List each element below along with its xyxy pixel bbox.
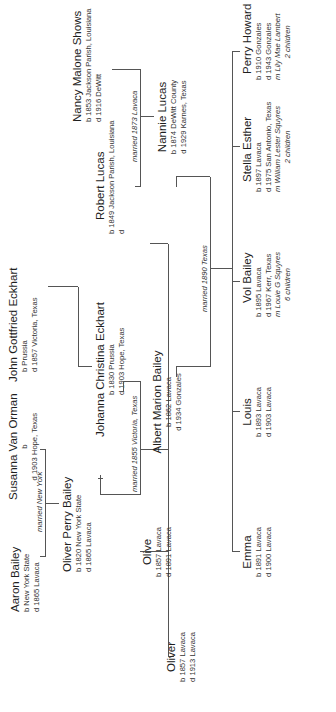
person-name: John Gottfried Eckhart	[6, 268, 20, 382]
person-birth: b 1910 Gonzales	[254, 4, 263, 80]
connector-line	[210, 268, 232, 269]
connector-line	[123, 382, 124, 392]
person-name: Vol Bailey	[240, 252, 254, 317]
marriage-label: married 1855 Victoria, Texas	[130, 396, 139, 492]
person-death: d 1900 Lavaca	[264, 517, 273, 587]
person-name: Nancy Malone Shows	[70, 8, 84, 122]
person-death: d 1903 Lavaca	[264, 377, 273, 447]
person-birth: b 1891 Lavaca	[254, 517, 263, 587]
person-children: 6 children	[283, 252, 292, 317]
person-name: Oliver Perry Bailey	[60, 477, 74, 572]
person-louis: Louis b 1893 Lavaca d 1903 Lavaca	[240, 377, 273, 447]
person-name: Susanna Van Orman	[6, 393, 20, 500]
connector-line	[112, 69, 140, 70]
person-robert-lucas: Robert Lucas b 1849 Jackson Parish, Loui…	[93, 120, 126, 234]
person-perry-howard: Perry Howard b 1910 Gonzales d 1943 Gonz…	[240, 4, 292, 80]
marriage-label: married 1890 Texas	[200, 245, 209, 312]
person-stella-esther: Stella Esther b 1897 Lavaca d 1975 San A…	[240, 102, 292, 192]
person-name: Johanna Christina Eckhart	[93, 302, 107, 437]
person-children: 2 children	[283, 4, 292, 80]
connector-line	[176, 366, 210, 367]
person-children: 2 children	[283, 102, 292, 192]
person-name: Olive	[140, 517, 154, 587]
person-death: d 1913 Lavaca	[188, 622, 197, 692]
person-death: d 1943 Gonzales	[264, 4, 273, 80]
person-birth: b 1857 Lavaca	[178, 622, 187, 692]
connector-line	[48, 286, 78, 287]
person-vol-bailey: Vol Bailey b 1895 Lavaca d 1967 Kerr, Te…	[240, 252, 292, 317]
person-name: Nannie Lucas	[155, 62, 169, 172]
person-death: d 1891 Lavaca	[164, 517, 173, 587]
person-birth: b 1893 Lavaca	[254, 377, 263, 447]
connector-line	[232, 551, 240, 552]
person-aaron-bailey: Aaron Bailey b New York State d 1865 Lav…	[8, 547, 41, 612]
person-death: d 1903 Hope, Texas	[117, 302, 126, 437]
person-death: d 1929 Karnes, Texas	[179, 62, 188, 172]
person-birth: b 1830 Prussia	[107, 302, 116, 437]
person-birth: b 1862 Lavaca	[164, 342, 173, 462]
person-birth: b New York State	[22, 547, 31, 612]
person-olive: Olive b 1857 Lavaca d 1891 Lavaca	[140, 517, 173, 587]
connector-line	[78, 287, 79, 367]
connector-line	[78, 366, 92, 367]
person-name: Oliver	[164, 622, 178, 692]
person-birth: b 1857 Lavaca	[154, 517, 163, 587]
person-oliver: Oliver b 1857 Lavaca d 1913 Lavaca	[164, 622, 197, 692]
person-death: d 1916 DeWitt	[94, 8, 103, 122]
person-name: Emma	[240, 517, 254, 587]
connector-line	[232, 146, 240, 147]
person-albert-marion-bailey: Albert Marion Bailey b 1862 Lavaca d 193…	[150, 342, 183, 462]
person-birth: b 1849 Jackson Parish, Louisiana	[107, 120, 116, 234]
connector-line	[150, 243, 168, 244]
connector-line	[176, 176, 210, 177]
person-death: d 1967 Kerr, Texas	[264, 252, 273, 317]
connector-line	[232, 411, 240, 412]
person-birth: b Prussia	[20, 268, 29, 382]
person-name: Robert Lucas	[93, 120, 107, 234]
person-name: Louis	[240, 377, 254, 447]
person-birth: b 1853 Jackson Parish, Louisiana	[84, 8, 93, 122]
person-death: d 1975 San Antonio, Texas	[264, 102, 273, 192]
person-birth: b	[20, 393, 29, 500]
connector-line	[140, 116, 154, 117]
person-john-gottfried-eckhart: John Gottfried Eckhart b Prussia d 1857 …	[6, 268, 39, 382]
person-death: d 1865 Lavaca	[84, 477, 93, 572]
connector-line	[210, 177, 211, 367]
connector-line	[232, 52, 233, 552]
person-name: Perry Howard	[240, 4, 254, 80]
family-tree-chart: Aaron Bailey b New York State d 1865 Lav…	[0, 0, 336, 712]
connector-line	[140, 381, 141, 495]
connector-line	[176, 177, 177, 187]
connector-line	[140, 69, 141, 187]
person-spouse: m Lily Mae Lambert	[273, 4, 282, 80]
connector-line	[123, 381, 140, 382]
connector-line	[100, 475, 101, 495]
person-death: d 1934 Gonzales	[174, 342, 183, 462]
connector-line	[232, 51, 240, 52]
person-emma: Emma b 1891 Lavaca d 1900 Lavaca	[240, 517, 273, 587]
marriage-label: married 1873 Lavaca	[130, 91, 139, 162]
person-death: d	[117, 120, 126, 234]
connector-line	[100, 494, 140, 495]
person-birth: b 1895 Lavaca	[254, 252, 263, 317]
person-name: Aaron Bailey	[8, 547, 22, 612]
marriage-label: married New York	[35, 472, 44, 532]
person-birth: b 1820 New York State	[74, 477, 83, 572]
person-death: d 1857 Victoria, Texas	[30, 268, 39, 382]
person-spouse: m Louie G Squyres	[273, 252, 282, 317]
person-birth: b 1897 Lavaca	[254, 102, 263, 192]
person-name: Albert Marion Bailey	[150, 342, 164, 462]
person-johanna-christina-eckhart: Johanna Christina Eckhart b 1830 Prussia…	[93, 302, 126, 437]
connector-line	[232, 281, 240, 282]
person-name: Stella Esther	[240, 102, 254, 192]
person-nancy-malone-shows: Nancy Malone Shows b 1853 Jackson Parish…	[70, 8, 103, 122]
person-oliver-perry-bailey: Oliver Perry Bailey b 1820 New York Stat…	[60, 477, 93, 572]
person-nannie-lucas: Nannie Lucas b 1874 DeWitt County d 1929…	[155, 62, 188, 172]
person-spouse: m William Lester Squyres	[273, 102, 282, 192]
connector-line	[176, 367, 177, 377]
connector-line	[45, 503, 59, 504]
person-birth: b 1874 DeWitt County	[169, 62, 178, 172]
